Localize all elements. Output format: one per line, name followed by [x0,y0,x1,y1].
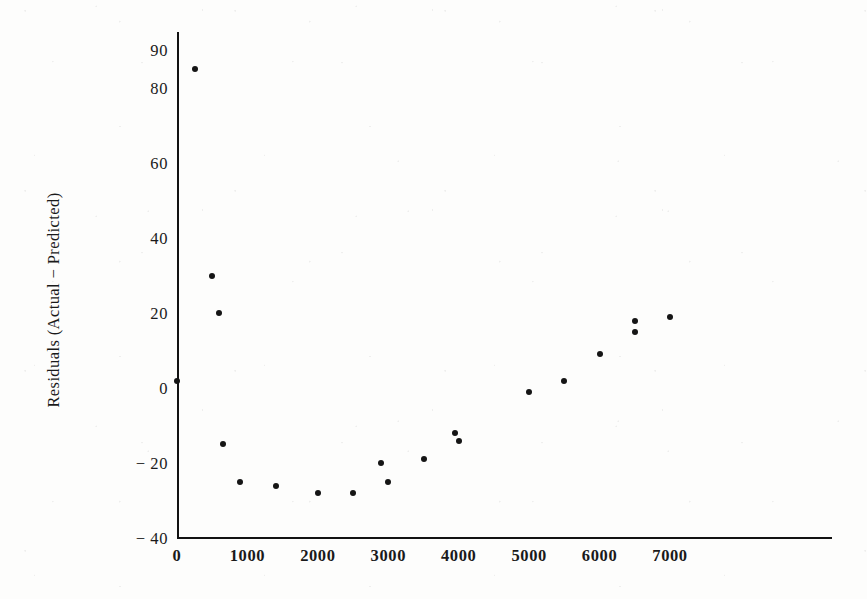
scatter-point [216,310,222,316]
scatter-point [192,66,198,72]
scatter-point [452,430,458,436]
scatter-point [421,456,427,462]
scatter-point [667,314,673,320]
scatter-point [273,483,279,489]
scatter-point [456,438,462,444]
residual-plot-figure: Residuals (Actual − Predicted) 908060402… [0,0,867,599]
scatter-point [632,329,638,335]
scatter-point [526,389,532,395]
scatter-points-layer [0,0,867,599]
scatter-point [315,490,321,496]
scatter-point [561,378,567,384]
scatter-point [385,479,391,485]
scatter-point [350,490,356,496]
scatter-point [209,273,215,279]
scatter-point [632,318,638,324]
scatter-point [174,378,180,384]
scatter-point [378,460,384,466]
scatter-point [220,441,226,447]
scatter-point [597,351,603,357]
scatter-point [237,479,243,485]
